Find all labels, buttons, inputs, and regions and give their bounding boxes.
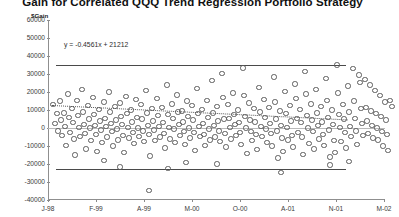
data-point bbox=[254, 147, 259, 152]
data-point bbox=[202, 143, 207, 148]
data-point bbox=[308, 101, 313, 106]
data-point bbox=[311, 146, 316, 151]
data-point bbox=[219, 71, 224, 76]
data-point bbox=[70, 120, 75, 125]
x-tick-label: M-02 bbox=[364, 206, 399, 213]
data-point bbox=[160, 120, 165, 125]
data-point bbox=[216, 128, 221, 133]
data-point bbox=[69, 106, 74, 111]
data-point bbox=[347, 124, 352, 129]
data-point bbox=[273, 116, 278, 121]
data-point bbox=[262, 115, 267, 120]
data-point bbox=[325, 115, 330, 120]
data-point bbox=[287, 103, 292, 108]
data-point bbox=[146, 132, 151, 137]
data-point bbox=[240, 65, 245, 70]
data-point bbox=[292, 81, 297, 86]
data-point bbox=[252, 119, 257, 124]
data-point bbox=[323, 76, 328, 81]
data-point bbox=[171, 126, 176, 131]
x-tick-label: J-98 bbox=[28, 206, 68, 213]
lower-band-line bbox=[56, 169, 346, 170]
data-point bbox=[59, 133, 64, 138]
data-point bbox=[249, 138, 254, 143]
data-point bbox=[293, 96, 298, 101]
data-point bbox=[241, 93, 246, 98]
data-point bbox=[92, 123, 97, 128]
data-point bbox=[326, 127, 331, 132]
y-tick-label: 60000 bbox=[1, 17, 45, 24]
data-point bbox=[101, 158, 106, 163]
data-point bbox=[52, 121, 57, 126]
data-point bbox=[145, 123, 150, 128]
data-point bbox=[266, 105, 271, 110]
data-point bbox=[144, 110, 149, 115]
data-point bbox=[65, 91, 70, 96]
data-point bbox=[280, 149, 285, 154]
data-point bbox=[80, 109, 85, 114]
data-point bbox=[143, 88, 148, 93]
data-point bbox=[340, 102, 345, 107]
data-point bbox=[346, 109, 351, 114]
data-point bbox=[288, 118, 293, 123]
data-point bbox=[161, 131, 166, 136]
data-point bbox=[246, 100, 251, 105]
data-point bbox=[140, 128, 145, 133]
data-point bbox=[290, 144, 295, 149]
data-point bbox=[303, 91, 308, 96]
data-point bbox=[182, 142, 187, 147]
data-point bbox=[136, 134, 141, 139]
data-point bbox=[191, 130, 196, 135]
data-point bbox=[72, 152, 77, 157]
data-point bbox=[199, 107, 204, 112]
data-point bbox=[217, 139, 222, 144]
y-tick-label: 0 bbox=[1, 125, 45, 132]
data-point bbox=[149, 106, 154, 111]
data-point bbox=[214, 104, 219, 109]
data-point bbox=[131, 141, 136, 146]
data-point bbox=[316, 136, 321, 141]
data-point bbox=[278, 123, 283, 128]
data-point bbox=[267, 121, 272, 126]
data-point bbox=[225, 102, 230, 107]
data-point bbox=[67, 130, 72, 135]
x-tick-label: F-99 bbox=[76, 206, 116, 213]
data-point bbox=[54, 111, 59, 116]
data-point bbox=[74, 98, 79, 103]
data-point bbox=[169, 101, 174, 106]
data-point bbox=[130, 130, 135, 135]
data-point bbox=[256, 85, 261, 90]
data-point bbox=[79, 87, 84, 92]
data-point bbox=[220, 95, 225, 100]
data-point bbox=[133, 97, 138, 102]
data-point bbox=[383, 117, 388, 122]
y-tick-label: 10000 bbox=[1, 107, 45, 114]
data-point bbox=[318, 104, 323, 109]
data-point bbox=[274, 128, 279, 133]
data-point bbox=[310, 129, 315, 134]
data-point bbox=[205, 115, 210, 120]
data-point bbox=[259, 134, 264, 139]
data-point bbox=[284, 125, 289, 130]
data-point bbox=[138, 102, 143, 107]
data-point bbox=[81, 122, 86, 127]
data-point bbox=[377, 93, 382, 98]
data-point bbox=[117, 100, 122, 105]
data-point bbox=[306, 141, 311, 146]
data-point bbox=[162, 145, 167, 150]
data-point bbox=[362, 77, 367, 82]
y-tick-label: -10000 bbox=[1, 143, 45, 150]
data-point bbox=[356, 72, 361, 77]
x-tick-label: O-00 bbox=[220, 206, 260, 213]
data-point bbox=[251, 106, 256, 111]
data-point bbox=[244, 151, 249, 156]
data-point bbox=[342, 130, 347, 135]
data-point bbox=[279, 135, 284, 140]
data-point bbox=[289, 133, 294, 138]
y-tick-label: -20000 bbox=[1, 161, 45, 168]
data-point bbox=[187, 135, 192, 140]
data-point bbox=[155, 113, 160, 118]
data-point bbox=[385, 148, 390, 153]
data-point bbox=[200, 121, 205, 126]
